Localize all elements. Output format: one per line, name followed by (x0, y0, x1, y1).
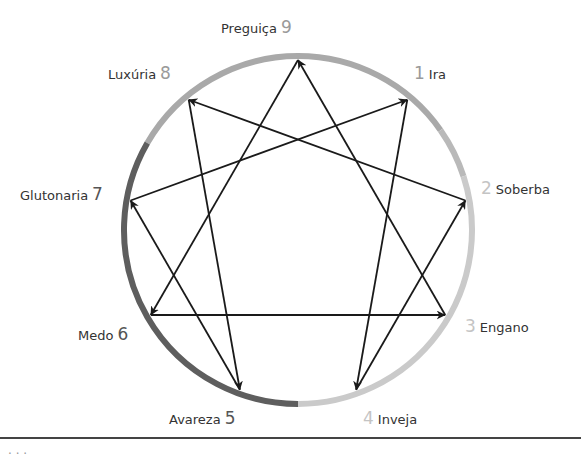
ring-segment (124, 143, 298, 404)
label-point-2: 2Soberba (481, 180, 554, 197)
point-4-number: 4 (363, 408, 374, 428)
point-5-name: Avareza (169, 412, 221, 427)
caption-text: · · · (0, 447, 581, 454)
point-1-number: 1 (414, 63, 425, 83)
caption-separator (0, 437, 581, 439)
arrow-9-to-6 (151, 60, 298, 315)
point-6-number: 6 (117, 324, 128, 344)
label-point-5: Avareza5 (165, 410, 235, 427)
cropped-caption: · · · (0, 447, 581, 454)
label-point-8: Luxúria8 (104, 65, 171, 82)
label-point-6: Medo6 (74, 326, 128, 343)
arrow-3-to-9 (298, 60, 445, 315)
point-2-number: 2 (481, 178, 492, 198)
enneagram-ring (124, 56, 472, 404)
ring-segment (441, 130, 464, 176)
enneagram-arrows (131, 60, 466, 390)
label-point-3: 3Engano (465, 318, 533, 335)
point-9-name: Preguiça (221, 21, 277, 36)
point-8-name: Luxúria (108, 67, 156, 82)
enneagram-diagram (0, 0, 581, 454)
point-1-name: Ira (429, 67, 446, 82)
point-3-name: Engano (480, 320, 529, 335)
point-5-number: 5 (225, 408, 236, 428)
point-7-name: Glutonaria (20, 188, 88, 203)
point-9-number: 9 (281, 17, 292, 37)
label-point-9: Preguiça9 (217, 19, 292, 36)
arrow-7-to-1 (131, 100, 408, 201)
point-7-number: 7 (92, 184, 103, 204)
point-8-number: 8 (160, 63, 171, 83)
point-6-name: Medo (78, 328, 113, 343)
point-2-name: Soberba (496, 182, 550, 197)
label-point-4: 4Inveja (363, 410, 421, 427)
label-point-7: Glutonaria7 (16, 186, 103, 203)
label-point-1: 1Ira (414, 65, 450, 82)
point-3-number: 3 (465, 316, 476, 336)
arrow-2-to-8 (189, 100, 466, 201)
point-4-name: Inveja (378, 412, 417, 427)
